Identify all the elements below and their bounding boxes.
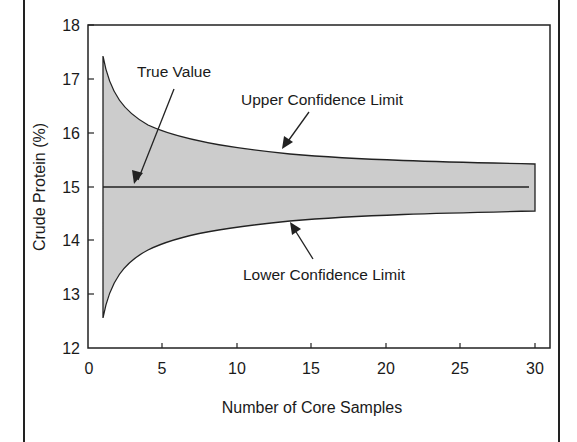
annotation-true-value: True Value — [137, 63, 211, 80]
annotation-lower-limit: Lower Confidence Limit — [243, 266, 406, 283]
y-tick-label: 16 — [62, 125, 80, 142]
chart: 12 13 14 15 16 17 18 0 5 10 15 20 25 30 … — [0, 0, 577, 442]
y-tick-label: 13 — [62, 286, 80, 303]
arrowhead-icon — [282, 136, 293, 149]
y-tick-label: 12 — [62, 340, 80, 357]
y-tick-label: 18 — [62, 17, 80, 34]
annotation-upper-limit: Upper Confidence Limit — [241, 91, 404, 108]
x-tick-label: 0 — [85, 360, 94, 377]
y-axis-title: Crude Protein (%) — [31, 123, 48, 251]
y-tick-label: 15 — [62, 179, 80, 196]
y-axis — [88, 25, 94, 294]
x-axis-title: Number of Core Samples — [222, 399, 403, 416]
x-tick-label: 30 — [526, 360, 544, 377]
x-tick-label: 25 — [451, 360, 469, 377]
x-tick-label: 15 — [302, 360, 320, 377]
arrow-upper-limit — [286, 112, 309, 144]
arrowhead-icon — [290, 222, 301, 235]
y-tick-label: 17 — [62, 71, 80, 88]
x-tick-label: 20 — [377, 360, 395, 377]
x-tick-label: 5 — [158, 360, 167, 377]
x-tick-label: 10 — [228, 360, 246, 377]
y-tick-label: 14 — [62, 232, 80, 249]
